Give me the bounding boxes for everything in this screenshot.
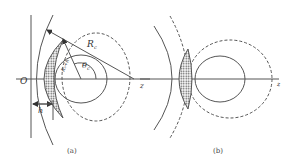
label-h: h [38,106,43,115]
rc-line [47,30,134,79]
panel-a [16,15,150,145]
outer-arc-b [154,26,172,130]
caption-a: (a) [67,147,77,155]
shaded-region-b [179,49,192,109]
label-origin: O [20,76,28,86]
label-re-h: Rₑ+h [59,58,70,73]
panel-b [140,16,279,138]
label-z-a: z [139,82,144,90]
caption-b: (b) [213,147,223,155]
label-theta-sub: c [87,65,90,71]
label-z-b: z [276,80,281,87]
figure: O z R c θ c Rₑ+h h (a) z (b) [0,0,291,164]
label-rc-sub: c [94,44,97,50]
label-rc: R [86,39,94,49]
